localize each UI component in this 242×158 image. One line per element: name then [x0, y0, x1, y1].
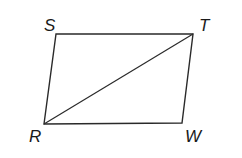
diagonal-rt — [44, 34, 193, 124]
vertex-label-s: S — [44, 17, 55, 34]
vertex-label-w: W — [185, 128, 201, 145]
vertex-label-r: R — [29, 128, 41, 145]
diagram-canvas: S T R W — [0, 0, 242, 158]
vertex-label-t: T — [199, 17, 209, 34]
